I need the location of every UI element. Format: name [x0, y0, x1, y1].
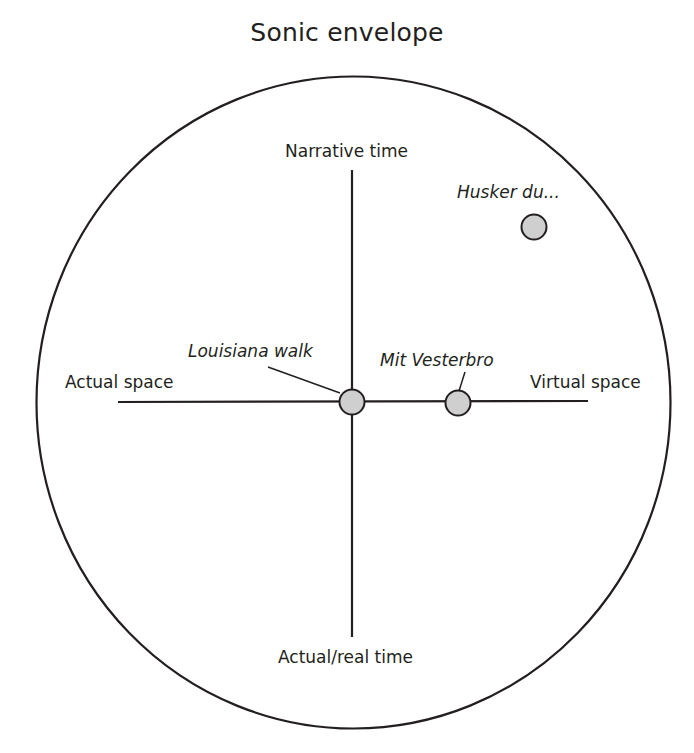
point-louisiana-walk [340, 390, 365, 415]
axis-label-right: Virtual space [530, 372, 641, 392]
point-label-louisiana-walk: Louisiana walk [188, 341, 313, 361]
axis-label-top: Narrative time [285, 141, 408, 161]
axis-label-bottom: Actual/real time [278, 647, 413, 667]
point-husker-du [522, 215, 547, 240]
point-label-husker-du: Husker du... [457, 182, 560, 202]
point-label-mit-vesterbro: Mit Vesterbro [380, 350, 494, 370]
leader-line-vesterbro [459, 372, 465, 391]
axis-label-left: Actual space [65, 372, 174, 392]
leader-line-louisiana [268, 367, 340, 393]
point-mit-vesterbro [446, 391, 471, 416]
